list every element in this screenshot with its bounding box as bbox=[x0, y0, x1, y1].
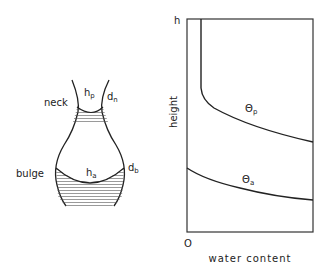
x-axis-label: water content bbox=[209, 253, 292, 264]
bulge-label: bulge bbox=[16, 168, 44, 179]
db-label: db bbox=[128, 162, 139, 175]
y-top-label: h bbox=[174, 15, 180, 26]
chart-frame bbox=[187, 19, 313, 232]
vessel-diagram: neck hp dn bulge ha db bbox=[16, 80, 139, 208]
neck-label: neck bbox=[44, 97, 68, 108]
height-water-chart: h height O water content Θp Θa bbox=[168, 15, 313, 264]
theta-a-label: Θa bbox=[242, 174, 254, 187]
theta-p-label: Θp bbox=[245, 103, 258, 116]
ha-label: ha bbox=[86, 167, 97, 180]
curve-theta-p bbox=[201, 19, 313, 142]
origin-label: O bbox=[184, 238, 192, 249]
hp-label: hp bbox=[84, 87, 95, 100]
diagram-canvas: neck hp dn bulge ha db h height O water … bbox=[0, 0, 330, 274]
neck-water-hatch bbox=[70, 104, 110, 124]
y-axis-label: height bbox=[168, 96, 179, 128]
dn-label: dn bbox=[107, 91, 118, 104]
